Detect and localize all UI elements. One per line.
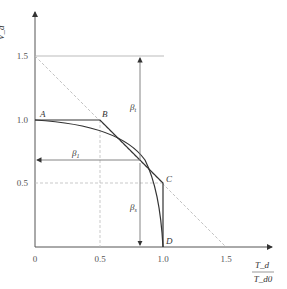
point-D: D [165, 236, 173, 246]
x-tick: 0 [33, 254, 38, 264]
y-tick: 1.5 [17, 51, 29, 61]
y-axis-label: V_d [0, 25, 6, 40]
interaction-curve [35, 120, 163, 247]
beta-1-label: β1 [71, 148, 79, 159]
beta-t-label: βt [129, 102, 136, 113]
x-label-den: T_d0 [254, 274, 273, 284]
beta-s-label: βs [129, 202, 137, 213]
y-tick: 0.5 [17, 178, 29, 188]
capacity-polyline [35, 120, 163, 247]
x-tick: 0.5 [94, 254, 106, 264]
point-C: C [166, 174, 173, 184]
diagram: V_d 0 0.5 1.0 1.5 0.5 1.0 1.5 A B C D βt… [0, 0, 287, 289]
point-B: B [102, 109, 108, 119]
y-tick: 1.0 [17, 115, 29, 125]
point-A: A [39, 109, 46, 119]
dashed-diagonal [35, 56, 226, 247]
x-tick: 1.0 [157, 254, 169, 264]
x-tick: 1.5 [220, 254, 232, 264]
x-label-num: T_d [255, 260, 270, 270]
